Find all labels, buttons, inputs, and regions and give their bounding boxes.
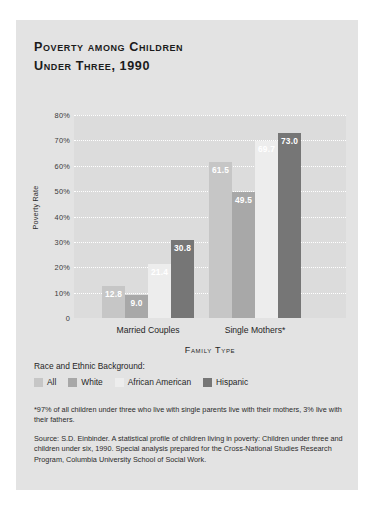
bar: 73.0 (278, 133, 301, 318)
bar: 61.5 (209, 162, 232, 318)
bar-value-label: 61.5 (209, 165, 232, 175)
gridline (74, 115, 346, 116)
bar-value-label: 30.8 (171, 243, 194, 253)
page-title: Poverty among Children Under Three, 1990 (34, 38, 334, 76)
figure-card: Poverty among Children Under Three, 1990… (16, 20, 358, 490)
bar: 21.4 (148, 264, 171, 318)
legend-item-label: White (81, 377, 102, 387)
bar-value-label: 21.4 (148, 267, 171, 277)
y-axis-tick-label: 0 (66, 314, 70, 323)
x-axis-category-label: Married Couples (102, 325, 194, 335)
bar-value-label: 49.5 (232, 195, 255, 205)
bar: 12.8 (102, 286, 125, 318)
chart-plot-wrapper: Poverty Rate 010%20%30%40%50%60%70%80% 1… (16, 115, 358, 330)
legend-item: Hispanic (203, 377, 248, 387)
legend-item-label: All (47, 377, 56, 387)
y-axis-tick-label: 70% (55, 136, 70, 145)
chart-title-line-1: Poverty among Children (34, 38, 334, 57)
chart-legend: Race and Ethnic Background: AllWhiteAfri… (34, 361, 344, 387)
legend-swatch (68, 378, 77, 387)
y-axis-tick-label: 50% (55, 187, 70, 196)
y-axis-tick-label: 80% (55, 111, 70, 120)
source-text: Source: S.D. Einbinder. A statistical pr… (34, 434, 344, 465)
bar: 30.8 (171, 240, 194, 318)
legend-heading: Race and Ethnic Background: (34, 361, 344, 371)
plot-area: 12.89.021.430.861.549.569.773.0 (74, 115, 346, 318)
bar-value-label: 69.7 (255, 144, 278, 154)
legend-swatch (115, 378, 124, 387)
y-axis-tick-label: 60% (55, 161, 70, 170)
bar: 9.0 (125, 295, 148, 318)
legend-item-label: Hispanic (216, 377, 248, 387)
legend-item: All (34, 377, 56, 387)
legend-swatch (34, 378, 43, 387)
bar: 69.7 (255, 141, 278, 318)
y-axis-title: Poverty Rate (31, 173, 40, 243)
legend-item: White (68, 377, 102, 387)
x-axis-title: Family Type (74, 345, 346, 355)
bar-value-label: 9.0 (125, 298, 148, 308)
legend-items: AllWhiteAfrican AmericanHispanic (34, 377, 344, 387)
gridline (74, 140, 346, 141)
y-axis-tick-label: 10% (55, 288, 70, 297)
bar: 49.5 (232, 192, 255, 318)
y-axis-tick-label: 20% (55, 263, 70, 272)
legend-item: African American (115, 377, 191, 387)
y-axis-tick-label: 40% (55, 212, 70, 221)
y-axis-tick-label: 30% (55, 237, 70, 246)
chart-title-line-2: Under Three, 1990 (34, 57, 334, 76)
x-axis-category-label: Single Mothers* (209, 325, 301, 335)
legend-item-label: African American (128, 377, 191, 387)
bar-value-label: 12.8 (102, 289, 125, 299)
y-axis-tick-labels: 010%20%30%40%50%60%70%80% (42, 115, 70, 318)
footnote-text: *97% of all children under three who liv… (34, 405, 342, 426)
legend-swatch (203, 378, 212, 387)
bar-value-label: 73.0 (278, 136, 301, 146)
